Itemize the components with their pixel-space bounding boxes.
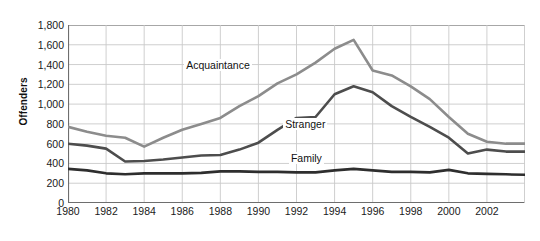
- series-label-family: Family: [289, 152, 324, 164]
- y-axis-tick-1200: 1,200: [20, 79, 64, 90]
- series-label-stranger: Stranger: [283, 118, 327, 130]
- y-axis-tick-600: 600: [20, 139, 64, 150]
- y-axis-tick-1400: 1,400: [20, 60, 64, 71]
- x-axis-tick-labels: 1980198219841986198819901992199419961998…: [68, 206, 525, 226]
- y-axis-tick-1000: 1,000: [20, 99, 64, 110]
- plot-area: [68, 25, 525, 203]
- y-axis-tick-1600: 1,600: [20, 40, 64, 51]
- y-axis-tick-400: 400: [20, 158, 64, 169]
- y-axis-tick-200: 200: [20, 178, 64, 189]
- y-axis-tick-1800: 1,800: [20, 20, 64, 31]
- plot-svg: [68, 25, 525, 203]
- series-label-acquaintance: Acquaintance: [184, 59, 252, 71]
- y-axis-tick-800: 800: [20, 119, 64, 130]
- x-axis-tick-2002: 2002: [463, 206, 511, 217]
- offenders-line-chart: Offenders 1,8001,6001,4001,2001,00080060…: [0, 0, 540, 241]
